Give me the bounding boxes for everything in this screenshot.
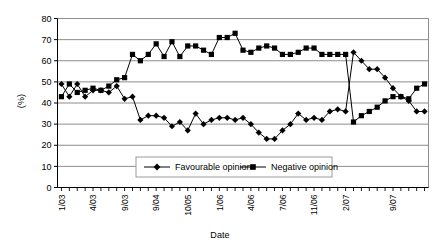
svg-text:11/06: 11/06 (309, 194, 319, 215)
svg-text:0: 0 (46, 183, 51, 193)
svg-text:80: 80 (41, 14, 51, 24)
line-chart-plot: 01020304050607080 1/034/039/039/0410/051… (0, 0, 440, 252)
x-axis-ticks: 1/034/039/039/0410/051/064/067/0611/062/… (57, 188, 425, 216)
chart-container: 01020304050607080 1/034/039/039/0410/051… (0, 0, 440, 252)
svg-text:70: 70 (41, 35, 51, 45)
svg-text:60: 60 (41, 56, 51, 66)
svg-text:1/03: 1/03 (57, 194, 67, 211)
svg-text:20: 20 (41, 140, 51, 150)
svg-text:40: 40 (41, 98, 51, 108)
svg-text:10/05: 10/05 (183, 194, 193, 216)
x-axis-title: Date (0, 230, 440, 240)
chart-legend: Favourable opinionNegative opinion (136, 157, 338, 177)
svg-text:9/07: 9/07 (388, 194, 398, 211)
svg-text:2/07: 2/07 (341, 194, 351, 211)
svg-text:7/06: 7/06 (278, 194, 288, 211)
svg-text:30: 30 (41, 119, 51, 129)
svg-text:9/03: 9/03 (120, 194, 130, 211)
svg-text:50: 50 (41, 77, 51, 87)
svg-text:10: 10 (41, 162, 51, 172)
svg-text:4/03: 4/03 (88, 194, 98, 211)
data-series (58, 31, 427, 142)
svg-text:1/06: 1/06 (215, 194, 225, 211)
y-axis-ticks: 01020304050607080 (41, 14, 57, 193)
svg-text:9/04: 9/04 (151, 194, 161, 211)
y-axis-title: (%) (16, 90, 26, 112)
svg-text:Negative opinion: Negative opinion (271, 162, 338, 172)
svg-text:4/06: 4/06 (246, 194, 256, 211)
